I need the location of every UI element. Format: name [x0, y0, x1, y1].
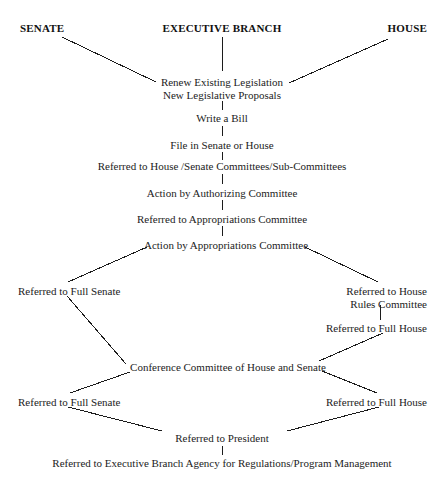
file-in-senate-or-house-label: File in Senate or House	[170, 139, 273, 151]
edge-senate-to-renew	[62, 37, 156, 82]
referred-to-full-senate-upper: Referred to Full Senate	[18, 285, 120, 298]
referred-to-house-rules-committee-label: Referred to House	[346, 285, 427, 297]
edge-action-to-house-rules	[305, 247, 378, 282]
edge-full-senate-to-president	[68, 407, 162, 431]
referred-to-full-house-lower-label: Referred to Full House	[326, 396, 427, 408]
flowchart-canvas: SENATEEXECUTIVE BRANCHHOUSE Renew Existi…	[0, 0, 446, 482]
edge-conference-to-full-house	[322, 371, 377, 393]
edge-house-to-renew	[289, 39, 388, 83]
referred-to-full-house-upper-label: Referred to Full House	[326, 322, 427, 334]
write-a-bill-label: Write a Bill	[196, 112, 248, 124]
renew-existing-legislation: Renew Existing LegislationNew Legislativ…	[161, 76, 283, 101]
referred-to-president: Referred to President	[175, 432, 268, 445]
write-a-bill: Write a Bill	[196, 112, 248, 125]
action-by-authorizing-committee: Action by Authorizing Committee	[147, 187, 298, 200]
referred-to-full-house-upper: Referred to Full House	[326, 322, 427, 335]
edge-full-senate-to-conference	[67, 296, 126, 364]
referred-to-house-senate-committees-label: Referred to House /Senate Committees/Sub…	[98, 160, 347, 172]
edge-full-house-to-conference	[319, 333, 383, 361]
referred-to-president-label: Referred to President	[175, 432, 268, 444]
action-by-appropriations-committee-label: Action by Appropriations Committee	[144, 239, 308, 251]
edge-full-house-to-president	[287, 407, 379, 431]
conference-committee-label: Conference Committee of House and Senate	[130, 361, 326, 373]
referred-to-executive-branch-agency: Referred to Executive Branch Agency for …	[52, 457, 391, 470]
file-in-senate-or-house: File in Senate or House	[170, 139, 273, 152]
renew-existing-legislation-label-line2: New Legislative Proposals	[161, 89, 283, 102]
referred-to-full-senate-lower: Referred to Full Senate	[18, 396, 120, 409]
referred-to-full-senate-upper-label: Referred to Full Senate	[18, 285, 120, 297]
referred-to-house-senate-committees: Referred to House /Senate Committees/Sub…	[98, 160, 347, 173]
referred-to-executive-branch-agency-label: Referred to Executive Branch Agency for …	[52, 457, 391, 469]
edge-action-to-full-senate	[68, 247, 147, 282]
house-heading: HOUSE	[387, 22, 427, 35]
referred-to-full-senate-lower-label: Referred to Full Senate	[18, 396, 120, 408]
renew-existing-legislation-label: Renew Existing Legislation	[161, 76, 283, 88]
edge-conference-to-full-senate	[70, 372, 130, 393]
referred-to-appropriations-committee-label: Referred to Appropriations Committee	[137, 213, 307, 225]
referred-to-house-rules-committee-label-line2: Rules Committee	[346, 298, 427, 311]
executive-branch-heading: EXECUTIVE BRANCH	[162, 22, 281, 35]
conference-committee: Conference Committee of House and Senate	[130, 361, 326, 374]
action-by-appropriations-committee: Action by Appropriations Committee	[144, 239, 308, 252]
senate-heading: SENATE	[20, 22, 64, 35]
referred-to-full-house-lower: Referred to Full House	[326, 396, 427, 409]
action-by-authorizing-committee-label: Action by Authorizing Committee	[147, 187, 298, 199]
referred-to-house-rules-committee: Referred to HouseRules Committee	[346, 285, 427, 310]
referred-to-appropriations-committee: Referred to Appropriations Committee	[137, 213, 307, 226]
